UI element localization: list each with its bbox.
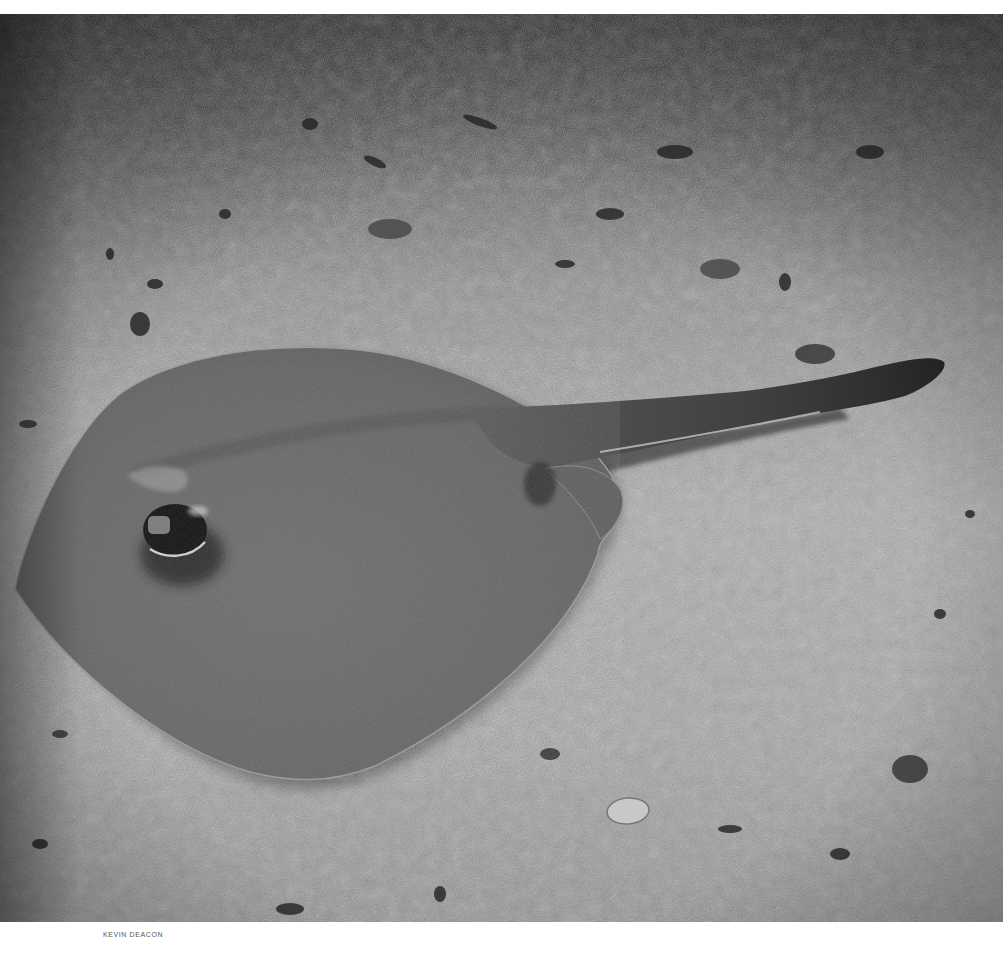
stingray-photo: [0, 14, 1003, 922]
photo-credit: KEVIN DEACON: [103, 931, 163, 938]
stingray-illustration: [0, 14, 1003, 922]
